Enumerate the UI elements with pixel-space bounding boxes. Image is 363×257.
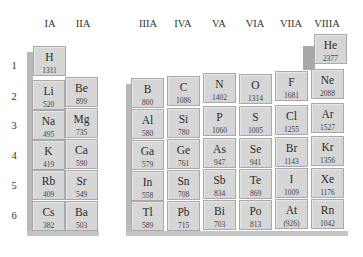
period-label: 2 — [8, 91, 20, 102]
element-symbol: Tl — [132, 206, 163, 218]
ionization-energy: 941 — [240, 158, 271, 167]
ionization-energy: 1527 — [312, 123, 343, 132]
period-label: 3 — [8, 120, 20, 131]
group-label: VIA — [238, 18, 272, 29]
group-label: IIIA — [131, 18, 165, 29]
element-symbol: Po — [240, 205, 271, 217]
element-symbol: Li — [33, 85, 64, 97]
element-cell-mg: Mg 735 — [65, 108, 98, 138]
element-symbol: Ga — [132, 145, 163, 157]
element-cell-be: Be 899 — [65, 77, 98, 107]
ionization-energy: 715 — [168, 221, 199, 230]
group-label: VIIIA — [310, 18, 344, 29]
left-block-base — [27, 231, 99, 236]
ionization-energy: 780 — [168, 128, 199, 137]
element-symbol: Rn — [312, 204, 343, 216]
element-symbol: I — [276, 173, 307, 185]
element-cell-li: Li 520 — [32, 80, 65, 110]
ionization-energy: 579 — [132, 160, 163, 169]
element-symbol: Xe — [312, 173, 343, 185]
element-cell-at: At (926) — [275, 199, 308, 229]
element-symbol: Ca — [66, 144, 97, 156]
ionization-energy: 1086 — [168, 96, 199, 105]
ionization-energy: 735 — [66, 128, 97, 137]
group-label: IVA — [166, 18, 200, 29]
element-cell-in: In 558 — [131, 171, 164, 201]
element-cell-n: N 1402 — [203, 73, 236, 103]
ionization-energy: 899 — [66, 97, 97, 106]
element-symbol: Ne — [312, 74, 343, 86]
ionization-energy: (926) — [276, 219, 307, 228]
ionization-energy: 800 — [132, 98, 163, 107]
ionization-energy: 1255 — [276, 125, 307, 134]
ionization-energy: 558 — [132, 191, 163, 200]
element-symbol: Cs — [33, 206, 64, 218]
element-cell-i: I 1009 — [275, 168, 308, 198]
ionization-energy: 1681 — [276, 91, 307, 100]
group-label: IA — [33, 18, 67, 29]
element-symbol: N — [204, 78, 235, 90]
ionization-energy: 2377 — [315, 54, 346, 63]
element-cell-ge: Ge 761 — [167, 139, 200, 169]
ionization-energy: 1356 — [312, 156, 343, 165]
ionization-energy: 947 — [204, 158, 235, 167]
element-symbol: Ge — [168, 144, 199, 156]
element-cell-br: Br 1143 — [275, 137, 308, 167]
element-symbol: P — [204, 111, 235, 123]
period-label: 4 — [8, 150, 20, 161]
ionization-energy: 813 — [240, 220, 271, 229]
element-cell-sb: Sb 834 — [203, 169, 236, 199]
ionization-energy: 703 — [204, 220, 235, 229]
element-cell-ar: Ar 1527 — [311, 103, 344, 133]
ionization-energy: 590 — [66, 159, 97, 168]
element-symbol: He — [315, 39, 346, 51]
element-cell-b: B 800 — [131, 78, 164, 108]
group-label: VIIA — [274, 18, 308, 29]
element-symbol: K — [33, 145, 64, 157]
group-label: VA — [202, 18, 236, 29]
element-symbol: Ba — [66, 206, 97, 218]
element-symbol: Sn — [168, 175, 199, 187]
right-block-base — [126, 231, 348, 236]
element-cell-kr: Kr 1356 — [311, 136, 344, 166]
period-label: 1 — [8, 60, 20, 71]
element-cell-si: Si 780 — [167, 108, 200, 138]
element-symbol: C — [168, 81, 199, 93]
period-label: 5 — [8, 180, 20, 191]
ionization-energy: 2088 — [312, 89, 343, 98]
element-cell-sn: Sn 708 — [167, 170, 200, 200]
element-cell-f: F 1681 — [275, 71, 308, 101]
element-symbol: B — [132, 83, 163, 95]
ionization-energy: 834 — [204, 189, 235, 198]
element-cell-pb: Pb 715 — [167, 201, 200, 231]
element-cell-k: K 419 — [32, 140, 65, 170]
element-symbol: As — [204, 143, 235, 155]
element-cell-na: Na 495 — [32, 110, 65, 140]
element-cell-ga: Ga 579 — [131, 140, 164, 170]
element-cell-bi: Bi 703 — [203, 200, 236, 230]
element-cell-sr: Sr 549 — [65, 170, 98, 200]
element-cell-cl: Cl 1255 — [275, 105, 308, 135]
element-symbol: In — [132, 176, 163, 188]
ionization-energy: 1042 — [312, 219, 343, 228]
ionization-energy: 708 — [168, 190, 199, 199]
element-symbol: Te — [240, 174, 271, 186]
ionization-energy: 1060 — [204, 126, 235, 135]
element-cell-xe: Xe 1176 — [311, 168, 344, 198]
element-symbol: Sb — [204, 174, 235, 186]
element-cell-he: He 2377 — [314, 34, 347, 64]
element-symbol: Pb — [168, 206, 199, 218]
ionization-energy: 549 — [66, 190, 97, 199]
element-cell-se: Se 941 — [239, 138, 272, 168]
element-symbol: Cl — [276, 110, 307, 122]
element-symbol: Si — [168, 113, 199, 125]
element-symbol: Sr — [66, 175, 97, 187]
ionization-energy: 503 — [66, 221, 97, 230]
ionization-energy: 1005 — [240, 126, 271, 135]
element-cell-s: S 1005 — [239, 106, 272, 136]
element-symbol: Al — [132, 114, 163, 126]
element-symbol: Ar — [312, 108, 343, 120]
ionization-energy: 495 — [33, 130, 64, 139]
element-cell-tl: Tl 589 — [131, 201, 164, 231]
ionization-energy: 409 — [33, 190, 64, 199]
